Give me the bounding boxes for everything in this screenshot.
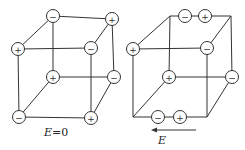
positive-ion-bottom-back-left: + [47, 71, 60, 84]
left-cube [18, 16, 114, 118]
svg-text:+: + [49, 73, 57, 83]
right-cube [133, 16, 232, 117]
negative-ion-top-front-right: − [85, 42, 98, 55]
polarization-diagram: −++−+−−+ E=0 −++−+−−+ E [0, 0, 245, 150]
svg-text:−: − [49, 12, 57, 22]
svg-text:−: − [228, 73, 236, 83]
positive-ion-bottom-back-left: + [163, 71, 176, 84]
negative-ion-bottom-back-right: − [226, 71, 239, 84]
positive-ion-top-back-edge-2: + [199, 10, 212, 23]
negative-ion-bottom-front-left: − [13, 111, 26, 124]
svg-text:−: − [15, 113, 23, 123]
electric-field-arrow [151, 128, 196, 133]
svg-text:+: + [176, 113, 184, 123]
svg-text:+: + [108, 15, 116, 25]
positive-ion-top-back-right: + [106, 13, 119, 26]
svg-text:−: − [154, 113, 162, 123]
negative-ion-top-back-edge-1: − [179, 10, 192, 23]
svg-text:+: + [165, 73, 173, 83]
svg-text:−: − [203, 44, 211, 54]
negative-ion-top-back-left: − [47, 10, 60, 23]
svg-text:−: − [87, 44, 95, 54]
negative-ion-bottom-front-edge-1: − [152, 111, 165, 124]
arrowhead-icon [151, 128, 157, 133]
negative-ion-top-front-right: − [201, 42, 214, 55]
svg-text:+: + [14, 45, 22, 55]
svg-text:+: + [201, 12, 209, 22]
svg-text:+: + [129, 45, 137, 55]
negative-ion-bottom-back-right: − [108, 71, 121, 84]
svg-text:−: − [181, 12, 189, 22]
right-caption: E [157, 134, 166, 147]
positive-ion-top-front-left: + [12, 43, 25, 56]
left-caption: E=0 [43, 126, 68, 139]
positive-ion-top-front-left: + [127, 43, 140, 56]
svg-text:+: + [87, 114, 95, 124]
svg-text:−: − [110, 73, 118, 83]
positive-ion-bottom-front-right: + [85, 112, 98, 125]
right-cube-ions: −++−+−−+ [127, 10, 239, 124]
positive-ion-bottom-front-edge-2: + [174, 111, 187, 124]
